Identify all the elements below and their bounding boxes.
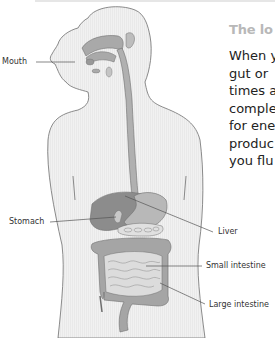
body-line: you flu [229, 152, 275, 170]
small-intestine [104, 252, 162, 297]
label-small-intestine: Small intestine [206, 261, 266, 271]
body-line: comple [229, 100, 275, 118]
pancreas [118, 223, 163, 236]
body-line: When y [229, 47, 275, 65]
body-line: times a [229, 82, 275, 100]
label-stomach: Stomach [9, 217, 44, 227]
section-heading: The lo [229, 22, 273, 37]
body-line: for ene [229, 117, 275, 135]
salivary-gland [106, 67, 112, 77]
label-liver: Liver [218, 227, 238, 237]
mouth-lips [86, 59, 94, 65]
body-line: gut or [229, 65, 275, 83]
label-mouth: Mouth [2, 57, 27, 67]
label-large-intestine: Large intestine [209, 300, 269, 310]
teeth [92, 69, 100, 73]
document-page: Mouth Stomach Liver Small intestine Larg… [0, 0, 275, 338]
body-line: produc [229, 135, 275, 153]
body-paragraph: When y gut or times a comple for ene pro… [229, 47, 275, 170]
